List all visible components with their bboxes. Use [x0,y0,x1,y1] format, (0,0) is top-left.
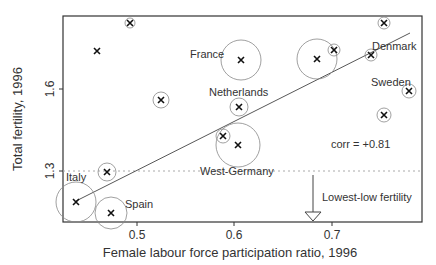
scatter-chart: 1.6 1.3 Total fertility, 1996 0.5 0.6 0.… [0,0,436,265]
label-italy: Italy [66,171,87,183]
label-france: France [190,48,224,60]
label-west-germany: West-Germany [200,165,274,177]
y-tick-1-3: 1.3 [43,162,57,179]
x-tick-0-7: 0.7 [324,228,341,242]
label-netherlands: Netherlands [209,86,269,98]
corr-annotation: corr = +0.81 [331,138,390,150]
x-axis-label: Female labour force participation ratio,… [103,245,357,260]
label-denmark: Denmark [372,40,417,52]
y-tick-1-6: 1.6 [43,80,57,97]
y-axis: 1.6 1.3 Total fertility, 1996 [10,67,63,179]
label-spain: Spain [125,198,153,210]
country-labels: France Netherlands West-Germany Denmark … [66,40,417,210]
y-axis-label: Total fertility, 1996 [10,67,25,171]
lowest-low-label: Lowest-low fertility [322,191,412,203]
data-points [73,20,412,216]
label-sweden: Sweden [371,76,411,88]
x-tick-0-5: 0.5 [129,228,146,242]
x-tick-0-6: 0.6 [226,228,243,242]
x-axis: 0.5 0.6 0.7 Female labour force particip… [103,222,357,260]
lowest-low-arrow: Lowest-low fertility [305,175,412,221]
